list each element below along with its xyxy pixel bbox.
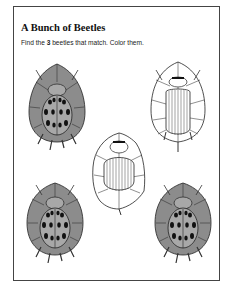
spotted-beetle-icon <box>26 62 88 152</box>
worksheet-title: A Bunch of Beetles <box>21 22 105 33</box>
striped-beetle-icon <box>90 131 148 215</box>
striped-beetle-icon <box>148 60 208 154</box>
beetle-spotted-bottom-left[interactable] <box>24 181 86 265</box>
beetle-striped-top-right[interactable] <box>148 60 208 154</box>
beetle-spotted-top-left[interactable] <box>26 62 88 152</box>
beetle-spotted-bottom-right[interactable] <box>152 181 214 265</box>
spotted-beetle-icon <box>24 181 86 265</box>
spotted-beetle-icon <box>152 181 214 265</box>
worksheet-instruction: Find the 3 beetles that match. Color the… <box>21 39 144 46</box>
beetle-striped-center[interactable] <box>90 131 148 215</box>
